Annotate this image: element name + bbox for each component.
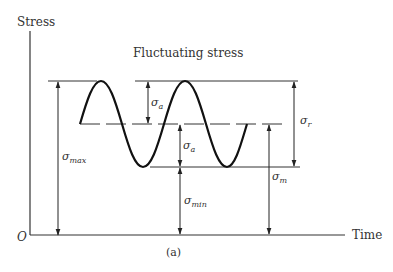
sigma-min-label: σmin <box>184 194 207 209</box>
y-axis-label: Stress <box>17 15 55 29</box>
sigma-a-lower-label: σa <box>183 139 196 154</box>
figure-title: Fluctuating stress <box>133 46 243 60</box>
x-axis-label: Time <box>352 228 382 242</box>
sigma-a-upper-label: σa <box>151 96 164 111</box>
origin-label: O <box>17 230 27 244</box>
sigma-m-label: σm <box>272 170 288 185</box>
figure-caption: (a) <box>166 246 181 259</box>
sigma-max-label: σmax <box>62 150 87 165</box>
sigma-r-label: σr <box>300 114 313 129</box>
fluctuating-stress-diagram: Stress Time O Fluctuating stress (a) σa … <box>0 0 393 272</box>
